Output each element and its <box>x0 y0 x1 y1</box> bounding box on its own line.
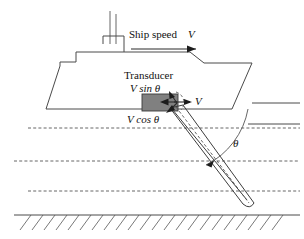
ship-speed-arrow <box>131 46 196 53</box>
transducer-label: Transducer <box>124 69 173 81</box>
sea-surface-line <box>248 103 300 124</box>
theta-angle-arc <box>206 109 248 168</box>
water-layer-dashed-lines <box>14 128 300 191</box>
v-sin-theta-label: V sin θ <box>130 82 161 94</box>
beam-inner-edge <box>172 109 247 200</box>
ship-speed-symbol: V <box>188 28 196 40</box>
v-cos-theta-label: V cos θ <box>127 113 160 125</box>
theta-label: θ <box>233 137 239 149</box>
sonar-beam-cone <box>170 105 254 207</box>
seafloor-hatching <box>20 215 283 230</box>
ship-transducer-diagram: Ship speed V Transducer V sin θ V cos θ … <box>0 0 304 239</box>
ship-masts <box>110 11 116 44</box>
v-vector-label: V <box>195 95 203 107</box>
diagram-root: Ship speed V Transducer V sin θ V cos θ … <box>0 0 304 239</box>
ship-speed-label: Ship speed <box>129 28 177 40</box>
seafloor <box>14 215 300 230</box>
